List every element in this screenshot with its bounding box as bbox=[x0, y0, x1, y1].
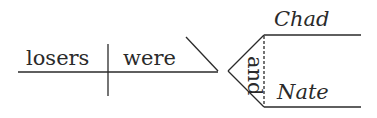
conjunction-word: and bbox=[243, 56, 267, 96]
subject-word: losers bbox=[26, 46, 89, 70]
sentence-diagram: losers were Chad Nate and bbox=[0, 0, 377, 118]
diagram-canvas: losers were Chad Nate and bbox=[0, 0, 377, 118]
complement-word-1: Chad bbox=[274, 7, 330, 31]
complement-slant-line bbox=[186, 37, 218, 71]
verb-word: were bbox=[123, 46, 176, 70]
complement-word-2: Nate bbox=[276, 80, 329, 104]
